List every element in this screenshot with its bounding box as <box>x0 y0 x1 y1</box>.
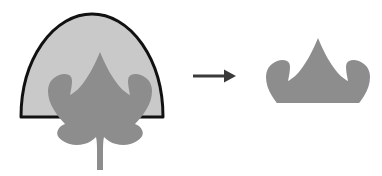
transformation-arrow <box>193 70 236 83</box>
arrow-head <box>224 70 236 83</box>
figure-canvas <box>0 0 382 176</box>
clipped-leaf-result <box>266 38 370 156</box>
set-operation-figure <box>0 0 382 176</box>
left-input-group <box>21 14 163 170</box>
right-result-group <box>266 38 370 156</box>
